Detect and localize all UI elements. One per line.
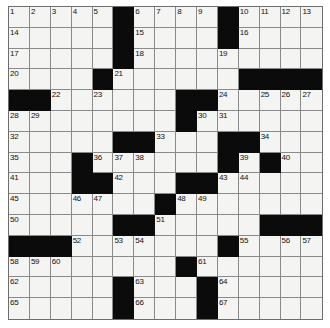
- grid-letter-cell[interactable]: [30, 173, 51, 194]
- grid-letter-cell[interactable]: 18: [134, 49, 155, 70]
- grid-letter-cell[interactable]: [155, 69, 176, 90]
- grid-letter-cell[interactable]: [176, 132, 197, 153]
- grid-letter-cell[interactable]: 24: [218, 90, 239, 111]
- grid-letter-cell[interactable]: [176, 277, 197, 298]
- grid-letter-cell[interactable]: [281, 111, 302, 132]
- grid-letter-cell[interactable]: 53: [113, 236, 134, 257]
- grid-letter-cell[interactable]: 10: [239, 7, 260, 28]
- grid-letter-cell[interactable]: [51, 28, 72, 49]
- grid-letter-cell[interactable]: 23: [93, 90, 114, 111]
- grid-letter-cell[interactable]: 3: [51, 7, 72, 28]
- grid-letter-cell[interactable]: [301, 277, 322, 298]
- grid-letter-cell[interactable]: [113, 194, 134, 215]
- grid-letter-cell[interactable]: [30, 194, 51, 215]
- grid-letter-cell[interactable]: [113, 257, 134, 278]
- grid-letter-cell[interactable]: [260, 277, 281, 298]
- grid-letter-cell[interactable]: [30, 28, 51, 49]
- grid-letter-cell[interactable]: 5: [93, 7, 114, 28]
- grid-letter-cell[interactable]: [197, 28, 218, 49]
- grid-letter-cell[interactable]: [51, 194, 72, 215]
- grid-letter-cell[interactable]: 57: [301, 236, 322, 257]
- grid-letter-cell[interactable]: 34: [260, 132, 281, 153]
- grid-letter-cell[interactable]: 17: [9, 49, 30, 70]
- grid-letter-cell[interactable]: [197, 236, 218, 257]
- grid-letter-cell[interactable]: [218, 194, 239, 215]
- grid-letter-cell[interactable]: 63: [134, 277, 155, 298]
- grid-letter-cell[interactable]: 7: [155, 7, 176, 28]
- grid-letter-cell[interactable]: [113, 90, 134, 111]
- grid-letter-cell[interactable]: [51, 132, 72, 153]
- grid-letter-cell[interactable]: [281, 173, 302, 194]
- grid-letter-cell[interactable]: [72, 90, 93, 111]
- grid-letter-cell[interactable]: 41: [9, 173, 30, 194]
- grid-letter-cell[interactable]: [51, 49, 72, 70]
- grid-letter-cell[interactable]: [72, 298, 93, 319]
- grid-letter-cell[interactable]: [93, 28, 114, 49]
- grid-letter-cell[interactable]: [176, 69, 197, 90]
- grid-letter-cell[interactable]: 55: [239, 236, 260, 257]
- grid-letter-cell[interactable]: 60: [51, 257, 72, 278]
- grid-letter-cell[interactable]: [281, 277, 302, 298]
- grid-letter-cell[interactable]: [176, 298, 197, 319]
- grid-letter-cell[interactable]: [134, 90, 155, 111]
- grid-letter-cell[interactable]: [239, 49, 260, 70]
- grid-letter-cell[interactable]: 25: [260, 90, 281, 111]
- grid-letter-cell[interactable]: [134, 69, 155, 90]
- grid-letter-cell[interactable]: [93, 257, 114, 278]
- grid-letter-cell[interactable]: 12: [281, 7, 302, 28]
- grid-letter-cell[interactable]: [176, 49, 197, 70]
- grid-letter-cell[interactable]: 44: [239, 173, 260, 194]
- grid-letter-cell[interactable]: [72, 49, 93, 70]
- grid-letter-cell[interactable]: [93, 111, 114, 132]
- grid-letter-cell[interactable]: [72, 111, 93, 132]
- grid-letter-cell[interactable]: 61: [197, 257, 218, 278]
- grid-letter-cell[interactable]: [197, 49, 218, 70]
- grid-letter-cell[interactable]: 65: [9, 298, 30, 319]
- grid-letter-cell[interactable]: [218, 215, 239, 236]
- grid-letter-cell[interactable]: [281, 49, 302, 70]
- grid-letter-cell[interactable]: 20: [9, 69, 30, 90]
- grid-letter-cell[interactable]: [239, 111, 260, 132]
- grid-letter-cell[interactable]: [72, 257, 93, 278]
- grid-letter-cell[interactable]: 11: [260, 7, 281, 28]
- grid-letter-cell[interactable]: [72, 132, 93, 153]
- grid-letter-cell[interactable]: [281, 194, 302, 215]
- grid-letter-cell[interactable]: [155, 28, 176, 49]
- grid-letter-cell[interactable]: 52: [72, 236, 93, 257]
- grid-letter-cell[interactable]: [301, 111, 322, 132]
- grid-letter-cell[interactable]: [301, 153, 322, 174]
- grid-letter-cell[interactable]: [93, 298, 114, 319]
- grid-letter-cell[interactable]: [301, 173, 322, 194]
- grid-letter-cell[interactable]: [260, 28, 281, 49]
- grid-letter-cell[interactable]: [93, 132, 114, 153]
- grid-letter-cell[interactable]: [72, 277, 93, 298]
- grid-letter-cell[interactable]: [155, 277, 176, 298]
- grid-letter-cell[interactable]: 43: [218, 173, 239, 194]
- grid-letter-cell[interactable]: [260, 111, 281, 132]
- grid-letter-cell[interactable]: [197, 153, 218, 174]
- grid-letter-cell[interactable]: [72, 215, 93, 236]
- grid-letter-cell[interactable]: [155, 298, 176, 319]
- grid-letter-cell[interactable]: [301, 49, 322, 70]
- grid-letter-cell[interactable]: [239, 277, 260, 298]
- grid-letter-cell[interactable]: [30, 49, 51, 70]
- grid-letter-cell[interactable]: 27: [301, 90, 322, 111]
- grid-letter-cell[interactable]: [93, 236, 114, 257]
- grid-letter-cell[interactable]: [134, 194, 155, 215]
- grid-letter-cell[interactable]: 46: [72, 194, 93, 215]
- grid-letter-cell[interactable]: [134, 111, 155, 132]
- grid-letter-cell[interactable]: 14: [9, 28, 30, 49]
- crossword-grid[interactable]: 1234567891011121314151617181920212223242…: [8, 6, 323, 320]
- grid-letter-cell[interactable]: [239, 215, 260, 236]
- grid-letter-cell[interactable]: [218, 69, 239, 90]
- grid-letter-cell[interactable]: 4: [72, 7, 93, 28]
- grid-letter-cell[interactable]: 6: [134, 7, 155, 28]
- grid-letter-cell[interactable]: [93, 49, 114, 70]
- grid-letter-cell[interactable]: [155, 153, 176, 174]
- grid-letter-cell[interactable]: [260, 236, 281, 257]
- grid-letter-cell[interactable]: 59: [30, 257, 51, 278]
- grid-letter-cell[interactable]: [51, 215, 72, 236]
- grid-letter-cell[interactable]: 28: [9, 111, 30, 132]
- grid-letter-cell[interactable]: 67: [218, 298, 239, 319]
- grid-letter-cell[interactable]: [155, 236, 176, 257]
